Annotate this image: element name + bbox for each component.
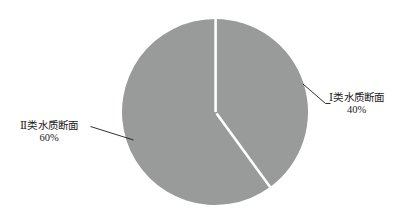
pie-label-category-1: Ⅰ类水质断面 40% bbox=[329, 92, 384, 116]
pie-label-category-2-name: Ⅱ类水质断面 bbox=[20, 120, 78, 132]
pie-label-category-1-name: Ⅰ类水质断面 bbox=[329, 92, 384, 104]
pie-label-category-1-value: 40% bbox=[329, 104, 384, 116]
pie-label-category-2-value: 60% bbox=[20, 132, 78, 144]
pie-label-category-2: Ⅱ类水质断面 60% bbox=[20, 120, 78, 144]
pie-chart: Ⅰ类水质断面 40% Ⅱ类水质断面 60% bbox=[0, 0, 411, 224]
